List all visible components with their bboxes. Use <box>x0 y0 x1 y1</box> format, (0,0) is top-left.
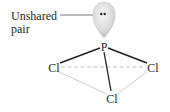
bond-p-cl-left <box>60 48 100 63</box>
atom-cl-right: Cl <box>147 61 159 75</box>
bond-p-cl-right <box>108 48 147 63</box>
bond-p-cl-bottom <box>104 52 111 91</box>
atom-cl-bottom: Cl <box>106 92 118 106</box>
edge-right-bottom <box>117 72 147 94</box>
lone-pair-lobe <box>93 2 115 38</box>
unshared-label-line1: Unshared <box>11 9 57 23</box>
pcl3-diagram: Unshared pair P Cl Cl Cl <box>0 0 170 112</box>
atom-cl-left: Cl <box>48 61 60 75</box>
unshared-label-line2: pair <box>11 22 30 36</box>
atom-p: P <box>101 40 108 54</box>
edge-left-bottom <box>59 72 107 94</box>
